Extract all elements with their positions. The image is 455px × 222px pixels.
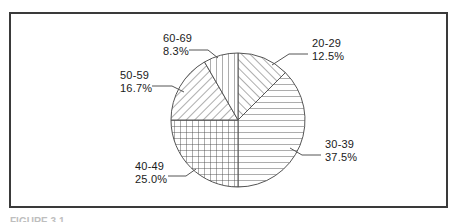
figure-container: 20-2912.5%30-3937.5%40-4925.0%50-5916.7%… bbox=[0, 0, 455, 222]
slice-percent-40-49: 25.0% bbox=[135, 173, 167, 185]
slice-percent-50-59: 16.7% bbox=[120, 82, 152, 94]
slice-label-50-59: 50-59 bbox=[120, 69, 149, 81]
figure-caption: FIGURE 3.1 bbox=[10, 216, 210, 222]
pie-slice-group bbox=[171, 53, 305, 187]
slice-percent-20-29: 12.5% bbox=[312, 50, 344, 62]
slice-percent-60-69: 8.3% bbox=[163, 45, 189, 57]
slice-label-60-69: 60-69 bbox=[163, 32, 192, 44]
slice-label-20-29: 20-29 bbox=[312, 37, 341, 49]
slice-percent-30-39: 37.5% bbox=[325, 151, 357, 163]
slice-label-30-39: 30-39 bbox=[325, 138, 354, 150]
pie-chart-figure: 20-2912.5%30-3937.5%40-4925.0%50-5916.7%… bbox=[0, 0, 455, 222]
slice-label-40-49: 40-49 bbox=[135, 160, 164, 172]
